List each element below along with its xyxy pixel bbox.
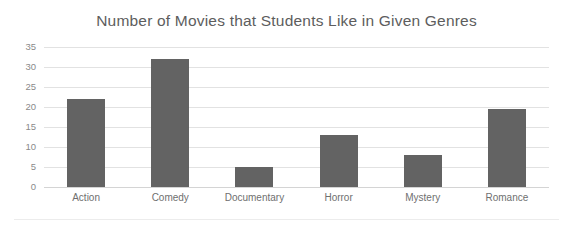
x-axis-baseline bbox=[44, 187, 549, 188]
bottom-divider bbox=[14, 219, 559, 220]
category-label-horror: Horror bbox=[324, 192, 352, 204]
bar-slot bbox=[297, 47, 381, 187]
category-label-romance: Romance bbox=[486, 192, 529, 204]
bar-chart-figure: Number of Movies that Students Like in G… bbox=[0, 0, 573, 235]
category-label-action: Action bbox=[72, 192, 100, 204]
y-tick-label: 0 bbox=[2, 182, 36, 192]
bar-horror[interactable] bbox=[320, 135, 358, 187]
bar-slot bbox=[212, 47, 296, 187]
bar-slot bbox=[128, 47, 212, 187]
y-tick-label: 15 bbox=[2, 122, 36, 132]
y-tick-label: 30 bbox=[2, 62, 36, 72]
y-tick-label: 25 bbox=[2, 82, 36, 92]
bar-comedy[interactable] bbox=[151, 59, 189, 187]
y-axis: 05101520253035 bbox=[0, 47, 44, 187]
bar-mystery[interactable] bbox=[404, 155, 442, 187]
bar-action[interactable] bbox=[67, 99, 105, 187]
bar-slot bbox=[381, 47, 465, 187]
y-tick-label: 10 bbox=[2, 142, 36, 152]
x-axis-category-labels: ActionComedyDocumentaryHorrorMysteryRoma… bbox=[44, 192, 549, 212]
category-label-documentary: Documentary bbox=[225, 192, 284, 204]
category-label-comedy: Comedy bbox=[152, 192, 189, 204]
chart-title: Number of Movies that Students Like in G… bbox=[0, 12, 573, 30]
y-tick-label: 20 bbox=[2, 102, 36, 112]
bar-documentary[interactable] bbox=[235, 167, 273, 187]
bar-slot bbox=[44, 47, 128, 187]
bar-romance[interactable] bbox=[488, 109, 526, 187]
y-tick-label: 35 bbox=[2, 42, 36, 52]
bar-slot bbox=[465, 47, 549, 187]
bars-layer bbox=[44, 47, 549, 187]
category-label-mystery: Mystery bbox=[405, 192, 440, 204]
y-tick-label: 5 bbox=[2, 162, 36, 172]
